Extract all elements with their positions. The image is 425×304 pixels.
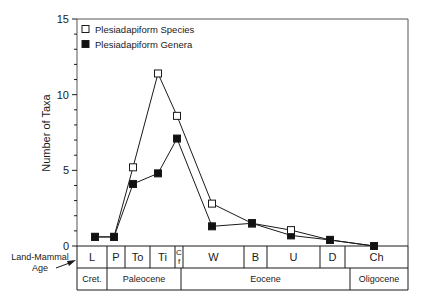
age-cell-label: L <box>89 251 95 263</box>
age-cell-label: P <box>112 251 119 263</box>
legend: Plesiadapiform SpeciesPlesiadapiform Gen… <box>82 24 195 50</box>
age-cell-label: B <box>252 251 259 263</box>
genera-point <box>209 223 216 230</box>
age-cell-label: To <box>132 251 144 263</box>
age-cell-label: f <box>178 257 181 266</box>
legend-filled-square-icon <box>82 41 89 48</box>
row-label-land-mammal: Land-Mammal <box>11 252 69 262</box>
species-point <box>288 227 295 234</box>
species-point <box>209 200 216 207</box>
age-cell-label: Ch <box>369 251 383 263</box>
genera-point <box>155 170 162 177</box>
series-line <box>95 73 374 246</box>
genera-point <box>130 180 137 187</box>
legend-label: Plesiadapiform Species <box>95 24 195 35</box>
age-cell-label: U <box>290 251 298 263</box>
y-tick-label: 15 <box>57 13 69 25</box>
legend-label: Plesiadapiform Genera <box>95 39 193 50</box>
age-cell-label: W <box>208 251 219 263</box>
row-label-age: Age <box>32 263 48 273</box>
genera-point <box>327 236 334 243</box>
plot-frame <box>77 19 408 246</box>
legend-open-square-icon <box>82 26 89 33</box>
y-axis-label: Number of Taxa <box>40 93 52 171</box>
genera-point <box>92 233 99 240</box>
species-point <box>174 112 181 119</box>
genera-point <box>174 135 181 142</box>
epoch-cell-label: Oligocene <box>359 274 400 284</box>
age-cell-label: D <box>329 251 337 263</box>
age-cell-label: C <box>176 248 182 257</box>
genera-point <box>111 233 118 240</box>
epoch-cell-label: Eocene <box>250 274 281 284</box>
epoch-cell-label: Paleocene <box>123 274 166 284</box>
y-tick-label: 5 <box>63 164 69 176</box>
epoch-cell-label: Cret. <box>82 274 102 284</box>
taxa-chart: 051015 Plesiadapiform SpeciesPlesiadapif… <box>0 0 425 304</box>
y-tick-label: 0 <box>63 240 69 252</box>
genera-point <box>249 220 256 227</box>
data-series <box>92 70 378 250</box>
age-cell-label: Ti <box>158 251 167 263</box>
species-point <box>155 70 162 77</box>
age-table: LPToTiCfWBUDChCret.PaleoceneEoceneOligoc… <box>77 246 408 290</box>
y-axis: 051015 <box>57 13 77 252</box>
y-tick-label: 10 <box>57 89 69 101</box>
species-point <box>130 164 137 171</box>
